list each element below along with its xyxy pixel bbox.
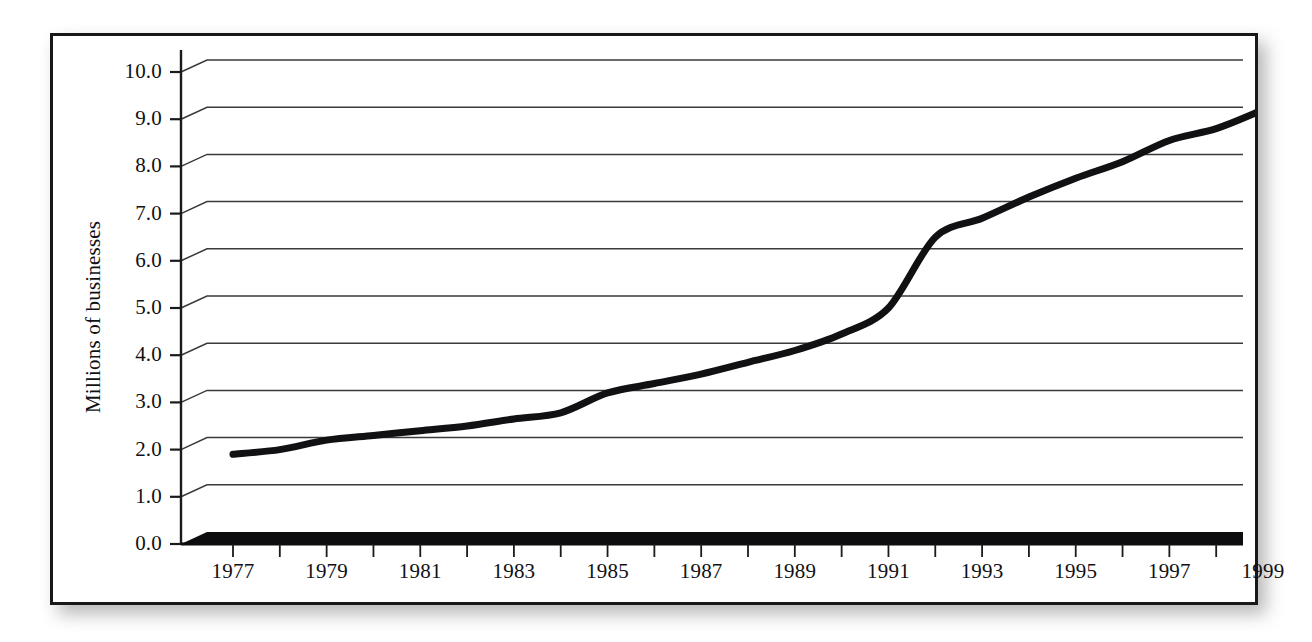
chart-frame: Millions of businesses 10.09.08.07.06.05…	[50, 33, 1258, 605]
x-axis-tick-label: 1981	[390, 559, 450, 584]
x-axis-tick-label: 1989	[765, 559, 825, 584]
gridline	[181, 249, 1243, 261]
y-axis-tick-label: 1.0	[110, 484, 162, 509]
y-axis-tick-label: 6.0	[110, 248, 162, 273]
x-axis-tick-label: 1987	[671, 559, 731, 584]
x-axis-tick-label: 1977	[203, 559, 263, 584]
y-axis-tick-label: 8.0	[110, 153, 162, 178]
x-axis-tick-label: 1995	[1046, 559, 1106, 584]
y-axis-tick-label: 4.0	[110, 342, 162, 367]
x-axis-tick-label: 1983	[484, 559, 544, 584]
y-axis-tick-label: 3.0	[110, 389, 162, 414]
data-series-line	[233, 110, 1255, 455]
x-axis-tick-label: 1993	[952, 559, 1012, 584]
y-axis-tick-label: 0.0	[110, 531, 162, 556]
gridline	[181, 343, 1243, 355]
gridline	[181, 202, 1243, 214]
x-axis-tick-group	[233, 544, 1255, 557]
y-axis-title: Millions of businesses	[81, 221, 106, 413]
gridline	[181, 60, 1243, 72]
gridline	[181, 296, 1243, 308]
chart-plot-area	[53, 36, 1255, 602]
x-axis-tick-label: 1979	[297, 559, 357, 584]
gridline	[181, 485, 1243, 497]
y-axis-tick-label: 7.0	[110, 201, 162, 226]
gridline	[181, 107, 1243, 119]
gridline-group	[181, 60, 1243, 497]
y-axis-tick-label: 10.0	[110, 59, 162, 84]
y-axis-tick-label: 5.0	[110, 295, 162, 320]
x-axis-tick-label: 1997	[1139, 559, 1199, 584]
x-axis-tick-label: 1985	[578, 559, 638, 584]
x-axis-tick-label: 1999	[1233, 559, 1293, 584]
y-axis-tick-group	[170, 72, 181, 544]
chart-figure: Millions of businesses 10.09.08.07.06.05…	[0, 0, 1312, 642]
x-axis-base-3d	[181, 532, 1243, 544]
x-axis-slab	[181, 532, 1243, 544]
y-axis-tick-label: 2.0	[110, 437, 162, 462]
gridline	[181, 154, 1243, 166]
x-axis-tick-label: 1991	[858, 559, 918, 584]
y-axis-tick-label: 9.0	[110, 106, 162, 131]
gridline	[181, 390, 1243, 402]
